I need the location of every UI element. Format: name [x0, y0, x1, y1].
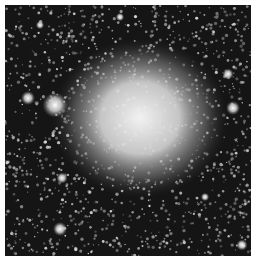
- bright-star: [36, 21, 44, 29]
- bright-star: [53, 222, 67, 236]
- bright-star: [222, 68, 233, 79]
- cluster-core: [52, 38, 228, 198]
- bright-star: [56, 172, 67, 183]
- bright-star: [201, 193, 209, 201]
- bright-star: [226, 101, 240, 115]
- star-cluster-photo: [5, 5, 251, 256]
- bright-star: [236, 239, 247, 250]
- starfield: [5, 5, 251, 256]
- bright-star: [116, 13, 124, 21]
- bright-star: [21, 91, 35, 105]
- bright-star: [42, 92, 67, 117]
